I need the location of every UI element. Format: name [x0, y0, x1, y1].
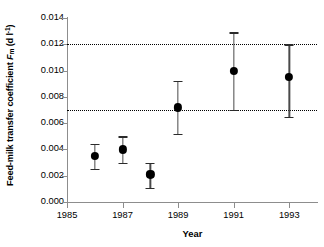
x-axis-tick-label: 1987	[100, 211, 146, 220]
x-axis-tick-mark	[178, 203, 179, 208]
y-axis-tick-label: 0.010	[26, 66, 64, 75]
error-bar-cap	[146, 188, 155, 189]
error-bar-cap	[90, 144, 99, 145]
y-axis-title: Feed-milk transfer coefficient Fm (d l-1…	[0, 0, 22, 210]
x-axis-line	[67, 202, 318, 203]
error-bar-cap	[90, 169, 99, 170]
y-axis-tick-mark	[62, 18, 67, 19]
data-point-marker	[118, 145, 126, 153]
y-axis-units-close: )	[6, 24, 16, 27]
y-axis-tick-label: 0.006	[26, 118, 64, 127]
data-point-marker	[230, 66, 238, 74]
y-axis-tick-label: 0.008	[26, 92, 64, 101]
x-axis-tick-label: 1991	[211, 211, 257, 220]
y-axis-tick-mark	[62, 149, 67, 150]
x-axis-tick-mark	[234, 203, 235, 208]
y-axis-tick-label: 0.014	[26, 13, 64, 22]
y-axis-tick-label: 0.012	[26, 39, 64, 48]
y-axis-units-open: (d l	[6, 33, 16, 49]
plot-area	[67, 18, 317, 202]
reference-line	[67, 44, 317, 45]
x-axis-tick-mark	[123, 203, 124, 208]
y-axis-tick-mark	[62, 176, 67, 177]
error-bar-cap	[285, 117, 294, 118]
x-axis-tick-label: 1989	[155, 211, 201, 220]
y-axis-title-subscript: m	[9, 48, 16, 54]
reference-line	[67, 110, 317, 111]
chart-figure: Feed-milk transfer coefficient Fm (d l-1…	[0, 0, 324, 247]
y-axis-tick-label: 0.002	[26, 171, 64, 180]
x-axis-tick-mark	[67, 203, 68, 208]
y-axis-title-text: Feed-milk transfer coefficient Fm (d l-1…	[6, 24, 17, 185]
y-axis-title-symbol: F	[6, 54, 16, 59]
y-axis-tick-mark	[62, 71, 67, 72]
x-axis-tick-mark	[289, 203, 290, 208]
error-bar-cap	[174, 134, 183, 135]
y-axis-tick-mark	[62, 44, 67, 45]
data-point-marker	[146, 170, 154, 178]
error-bar-cap	[285, 44, 294, 45]
y-axis-tick-mark	[62, 123, 67, 124]
x-axis-title: Year	[67, 229, 318, 238]
error-bar-cap	[146, 163, 155, 164]
error-bar-cap	[174, 81, 183, 82]
x-axis-tick-label: 1993	[266, 211, 312, 220]
error-bar-cap	[118, 136, 127, 137]
data-point-marker	[91, 152, 99, 160]
data-point-marker	[285, 73, 293, 81]
y-axis-title-prefix: Feed-milk transfer coefficient	[6, 60, 16, 186]
y-axis-tick-mark	[62, 97, 67, 98]
y-axis-tick-label: 0.000	[26, 197, 64, 206]
error-bar-cap	[118, 163, 127, 164]
y-axis-units-exponent: -1	[5, 27, 12, 33]
error-bar-cap	[229, 110, 238, 111]
x-axis-tick-label: 1985	[44, 211, 90, 220]
error-bar-cap	[229, 32, 238, 33]
y-axis-tick-label: 0.004	[26, 144, 64, 153]
